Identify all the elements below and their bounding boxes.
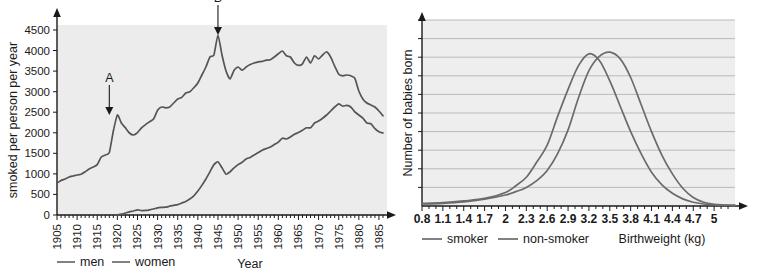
x-tick-label: 5 [711, 212, 718, 226]
x-tick-label: 1920 [111, 224, 123, 250]
x-tick-group [57, 215, 383, 220]
y-axis-title: smoked per person per year [6, 42, 20, 198]
x-tick-group [422, 206, 728, 211]
x-tick-label: 1960 [272, 224, 284, 250]
x-tick-label: 2 [502, 212, 509, 226]
x-tick-label: 0.8 [414, 212, 431, 226]
x-tick-label: 1930 [152, 224, 164, 250]
x-tick-label: 3.2 [581, 212, 598, 226]
x-axis-arrow-icon [387, 211, 396, 219]
x-tick-labels: 1905191019151920192519301935194019451950… [51, 224, 385, 250]
x-tick-label: 1980 [353, 224, 365, 250]
x-tick-label: 1975 [333, 224, 345, 250]
y-axis-arrow-icon [418, 12, 426, 21]
x-tick-labels: 0.81.11.41.722.32.62.93.23.53.84.14.44.7… [414, 212, 718, 226]
x-axis-title: Year [237, 257, 262, 271]
y-tick-labels: 0 500 1000 1500 2000 2500 3000 3500 4000… [24, 24, 50, 221]
y-axis-arrow-icon [53, 8, 61, 17]
x-tick-label: 1940 [192, 224, 204, 250]
annotation-b-label: B [214, 0, 222, 5]
y-tick-label: 4000 [24, 45, 50, 57]
cigarettes-chart-svg: 0 500 1000 1500 2000 2500 3000 3500 4000… [0, 0, 400, 278]
y-tick-label: 2500 [24, 106, 50, 118]
legend-right: smoker non-smoker [422, 232, 589, 246]
x-tick-label: 1985 [373, 224, 385, 250]
x-tick-label: 1.7 [476, 212, 493, 226]
y-tick-label: 1000 [24, 168, 50, 180]
x-tick-label: 1945 [212, 224, 224, 250]
legend-label-women: women [134, 255, 175, 269]
chart-panel-birthweight: Number of babies born 0.81.11.41.722.32.… [400, 0, 770, 278]
x-tick-label: 1970 [313, 224, 325, 250]
x-tick-label: 4.1 [643, 212, 660, 226]
x-tick-label: 2.6 [539, 212, 556, 226]
x-tick-label: 4.4 [664, 212, 681, 226]
x-tick-label: 1935 [172, 224, 184, 250]
x-tick-label: 1910 [71, 224, 83, 250]
y-tick-label: 1500 [24, 147, 50, 159]
x-tick-label: 1925 [131, 224, 143, 250]
x-tick-label: 3.5 [601, 212, 618, 226]
x-tick-label: 4.7 [685, 212, 702, 226]
y-tick-label: 3000 [24, 86, 50, 98]
y-tick-label: 0 [44, 209, 50, 221]
y-tick-label: 3500 [24, 65, 50, 77]
birthweight-chart-svg: Number of babies born 0.81.11.41.722.32.… [400, 0, 770, 278]
legend-label-non-smoker: non-smoker [523, 232, 589, 246]
x-tick-label: 1905 [51, 224, 63, 250]
x-axis-arrow-icon [739, 202, 748, 210]
legend-label-smoker: smoker [447, 232, 488, 246]
x-tick-label: 1915 [91, 224, 103, 250]
x-tick-label: 1965 [292, 224, 304, 250]
x-tick-label: 1955 [252, 224, 264, 250]
x-axis-title: Birthweight (kg) [619, 232, 706, 246]
x-tick-label: 2.3 [518, 212, 535, 226]
x-tick-label: 2.9 [560, 212, 577, 226]
figure-root: 0 500 1000 1500 2000 2500 3000 3500 4000… [0, 0, 770, 278]
legend-left: men women [57, 255, 175, 269]
annotation-a-label: A [105, 71, 114, 85]
x-tick-label: 3.8 [622, 212, 639, 226]
y-tick-label: 500 [31, 188, 50, 200]
y-axis-title: Number of babies born [401, 49, 415, 176]
legend-label-men: men [80, 255, 104, 269]
y-tick-label: 4500 [24, 24, 50, 36]
x-tick-label: 1.4 [455, 212, 472, 226]
x-tick-label: 1950 [232, 224, 244, 250]
y-tick-label: 2000 [24, 127, 50, 139]
chart-panel-cigarettes: 0 500 1000 1500 2000 2500 3000 3500 4000… [0, 0, 400, 278]
x-tick-label: 1.1 [435, 212, 452, 226]
